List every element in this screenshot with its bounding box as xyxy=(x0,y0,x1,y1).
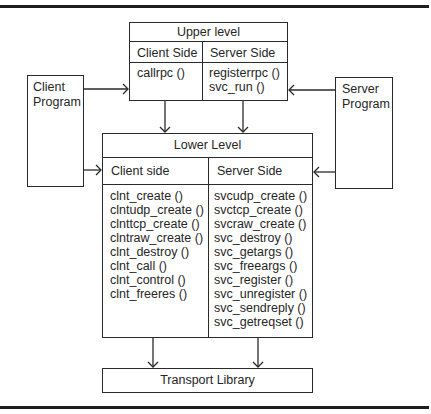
function-name: clntraw_create () xyxy=(110,231,204,245)
arrow-client-to-lower xyxy=(84,165,101,175)
function-name: svc_destroy () xyxy=(214,231,307,245)
function-name: svc_freeargs () xyxy=(214,259,307,273)
upper-server-function-list: registerrpc () svc_run () xyxy=(209,66,280,94)
function-name: svc_run () xyxy=(209,80,280,94)
arrow-upper-server-to-lower xyxy=(238,101,248,132)
function-name: clnttcp_create () xyxy=(110,217,204,231)
upper-title-divider xyxy=(129,41,288,42)
upper-column-divider xyxy=(202,41,203,101)
lower-header-divider xyxy=(102,184,313,185)
function-name: clnt_freeres () xyxy=(110,287,204,301)
server-program-label-line1: Server xyxy=(342,82,379,96)
upper-level-title: Upper level xyxy=(129,25,288,39)
function-name: svc_register () xyxy=(214,273,307,287)
arrow-lower-server-to-transport xyxy=(253,338,263,367)
function-name: svctcp_create () xyxy=(214,203,307,217)
function-name: clnt_destroy () xyxy=(110,245,204,259)
server-program-label-line2: Program xyxy=(342,97,390,111)
client-program-label-line1: Client xyxy=(33,80,65,94)
function-name: svc_getreqset () xyxy=(214,315,307,329)
function-name: svc_getargs () xyxy=(214,245,307,259)
arrow-server-to-lower xyxy=(314,167,335,177)
function-name: svc_unregister () xyxy=(214,287,307,301)
bottom-rule xyxy=(0,406,429,409)
top-rule xyxy=(0,5,429,8)
client-program-label-line2: Program xyxy=(33,95,81,109)
function-name: clnt_create () xyxy=(110,189,204,203)
function-name: clntudp_create () xyxy=(110,203,204,217)
upper-header-divider xyxy=(129,62,288,63)
function-name: clnt_control () xyxy=(110,273,204,287)
function-name: callrpc () xyxy=(137,66,185,80)
function-name: svcraw_create () xyxy=(214,217,307,231)
function-name: clnt_call () xyxy=(110,259,204,273)
arrow-lower-client-to-transport xyxy=(148,338,158,367)
upper-client-side-header: Client Side xyxy=(137,46,197,60)
lower-server-function-list: svcudp_create () svctcp_create () svcraw… xyxy=(214,189,307,329)
transport-library-label: Transport Library xyxy=(102,373,313,387)
lower-client-side-header: Client side xyxy=(111,164,169,178)
arrow-client-to-upper xyxy=(84,84,128,94)
lower-server-side-header: Server Side xyxy=(217,164,282,178)
function-name: registerrpc () xyxy=(209,66,280,80)
arrow-upper-client-to-lower xyxy=(160,101,170,132)
upper-client-function-list: callrpc () xyxy=(137,66,185,80)
upper-server-side-header: Server Side xyxy=(210,46,275,60)
lower-client-function-list: clnt_create () clntudp_create () clnttcp… xyxy=(110,189,204,301)
lower-level-title: Lower Level xyxy=(102,138,313,152)
function-name: svcudp_create () xyxy=(214,189,307,203)
function-name: svc_sendreply () xyxy=(214,301,307,315)
arrow-server-to-upper xyxy=(289,85,335,95)
